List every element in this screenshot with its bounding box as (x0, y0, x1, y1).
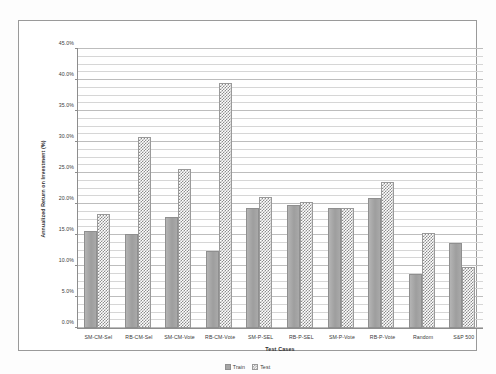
y-axis-tick-label: 30.0% (59, 133, 74, 139)
bar-test (422, 233, 435, 328)
bar-group: RB-P-SEL (281, 49, 322, 328)
bar-train (206, 251, 219, 328)
chart-legend: TrainTest (19, 364, 476, 370)
bar-test (381, 182, 394, 328)
bar-group: RB-CM-Sel (119, 49, 160, 328)
bar-train (449, 243, 462, 328)
bar-train (125, 234, 138, 328)
bar-group: SM-CM-Sel (78, 49, 119, 328)
y-axis-tick-label: 40.0% (59, 71, 74, 77)
bar-test (259, 197, 272, 328)
y-axis-tick-label: 25.0% (59, 164, 74, 170)
bars-layer: SM-CM-SelRB-CM-SelSM-CM-VoteRB-CM-VoteSM… (78, 49, 483, 328)
bar-train (84, 231, 97, 328)
bar-group: SM-P-SEL (240, 49, 281, 328)
x-axis-category-label: RB-CM-Sel (116, 334, 162, 340)
bar-test (462, 267, 475, 328)
bar-group: SM-P-Vote (322, 49, 363, 328)
legend-label: Train (233, 364, 245, 370)
x-axis-category-label: S&P 500 (441, 334, 487, 340)
bar-test (138, 137, 151, 328)
x-axis-category-label: SM-CM-Sel (75, 334, 121, 340)
x-axis-category-label: SM-CM-Vote (156, 334, 202, 340)
x-axis-category-label: RB-P-SEL (278, 334, 324, 340)
legend-swatch-icon (252, 364, 258, 370)
chart-frame: Annualized Return on Investment (%) 0.0%… (18, 20, 477, 351)
bar-group: RB-P-Vote (362, 49, 403, 328)
legend-item-test[interactable]: Test (252, 364, 270, 370)
bar-test (341, 208, 354, 328)
bar-train (165, 217, 178, 328)
bar-train (368, 198, 381, 328)
bar-group: S&P 500 (443, 49, 484, 328)
page-background: Annualized Return on Investment (%) 0.0%… (0, 0, 496, 374)
y-axis-tick-label: 45.0% (59, 40, 74, 46)
y-axis-title: Annualized Return on Investment (%) (40, 140, 46, 237)
x-axis-category-label: RB-CM-Vote (197, 334, 243, 340)
legend-label: Test (260, 364, 270, 370)
bar-test (219, 83, 232, 328)
y-axis-tick-label: 20.0% (59, 195, 74, 201)
y-axis-tick-label: 0.0% (62, 319, 74, 325)
bar-train (246, 208, 259, 328)
bar-group: Random (403, 49, 444, 328)
y-axis-tick-label: 10.0% (59, 257, 74, 263)
bar-test (178, 169, 191, 328)
bar-train (409, 274, 422, 328)
y-axis-tick-label: 15.0% (59, 226, 74, 232)
legend-swatch-icon (225, 364, 231, 370)
y-axis-tick-label: 5.0% (62, 288, 74, 294)
bar-test (97, 214, 110, 328)
bar-train (328, 208, 341, 328)
x-axis-category-label: SM-P-SEL (238, 334, 284, 340)
y-axis-tick-label: 35.0% (59, 102, 74, 108)
legend-item-train[interactable]: Train (225, 364, 245, 370)
x-axis-category-label: Random (400, 334, 446, 340)
plot-area: 0.0%5.0%10.0%15.0%20.0%25.0%30.0%35.0%40… (77, 49, 483, 329)
bar-group: RB-CM-Vote (200, 49, 241, 328)
bar-test (300, 202, 313, 328)
bar-train (287, 205, 300, 328)
x-axis-category-label: SM-P-Vote (319, 334, 365, 340)
x-axis-category-label: RB-P-Vote (359, 334, 405, 340)
x-axis-title: Test Cases (77, 346, 483, 352)
bar-group: SM-CM-Vote (159, 49, 200, 328)
